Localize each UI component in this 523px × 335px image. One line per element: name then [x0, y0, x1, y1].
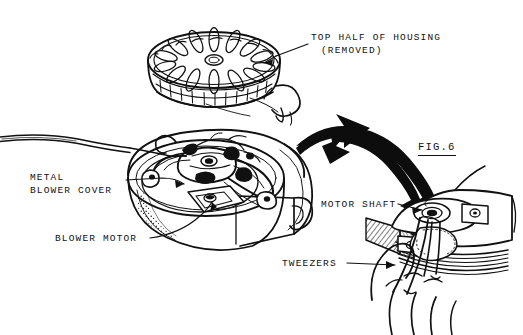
detail-view-group: [366, 166, 516, 335]
callout-blower-motor-label: BLOWER MOTOR: [55, 233, 137, 244]
blower-motor-assembly: [142, 133, 276, 212]
callout-metal-blower-cover-line1: METAL: [30, 172, 64, 183]
callout-metal-blower-cover-line2: BLOWER COVER: [30, 185, 112, 196]
bowl-interior-shading: [137, 192, 177, 238]
callout-metal-blower-cover: METAL BLOWER COVER: [30, 172, 112, 197]
callout-blower-motor: BLOWER MOTOR: [55, 233, 137, 246]
callout-top-half-of-housing: TOP HALF OF HOUSING (REMOVED): [311, 32, 441, 57]
top-housing-cover-group: [148, 28, 300, 126]
technical-illustration: [0, 0, 523, 335]
callout-tweezers-label: TWEEZERS: [282, 258, 337, 269]
callout-top-half-of-housing-line2: (REMOVED): [311, 45, 383, 56]
callout-tweezers: TWEEZERS: [282, 258, 337, 271]
callout-motor-shaft-label: MOTOR SHAFT: [321, 199, 396, 210]
figure-number: FIG.6: [418, 141, 456, 156]
power-cord: [0, 135, 130, 153]
housing-body-group: [128, 130, 312, 250]
callout-top-half-of-housing-line1: TOP HALF OF HOUSING: [311, 32, 441, 43]
callout-motor-shaft: MOTOR SHAFT: [321, 199, 396, 212]
nozzle-spout: [264, 85, 300, 125]
figure-canvas: TOP HALF OF HOUSING (REMOVED) METAL BLOW…: [0, 0, 523, 335]
